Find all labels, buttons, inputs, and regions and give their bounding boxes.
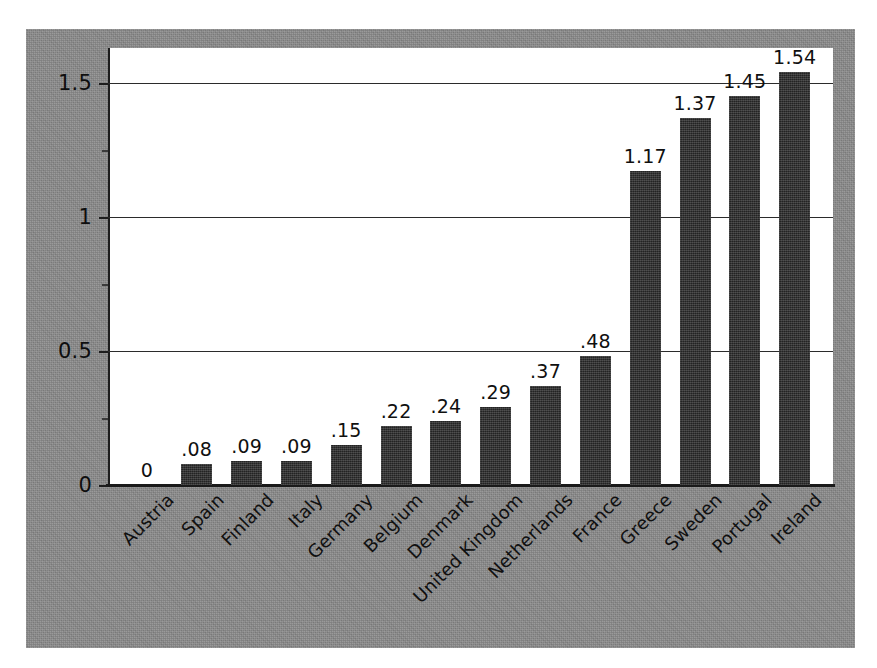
- y-axis-tick-label: 0.5: [26, 339, 92, 363]
- bar: [430, 421, 461, 485]
- x-axis-category-label: Italy: [284, 489, 327, 532]
- bar: [281, 461, 312, 485]
- bar-value-label: .15: [306, 419, 386, 441]
- bar-value-label: .48: [555, 330, 635, 352]
- x-axis-category-label: Austria: [117, 489, 177, 549]
- x-axis-category-labels: AustriaSpainFinlandItalyGermanyBelgiumDe…: [108, 489, 868, 649]
- y-axis-tick-label: 0: [26, 473, 92, 497]
- y-axis-tick: [99, 217, 108, 219]
- bar: [231, 461, 262, 485]
- x-axis-category-label: Finland: [217, 489, 278, 550]
- bar-value-label: .29: [456, 381, 536, 403]
- bar-value-label: .37: [506, 360, 586, 382]
- bar: [680, 118, 711, 485]
- y-axis-tick: [99, 351, 108, 353]
- bar: [480, 407, 511, 485]
- y-axis-tick: [99, 485, 108, 487]
- x-axis-category-label: Ireland: [766, 489, 825, 548]
- y-axis-tick-label: 1.5: [26, 71, 92, 95]
- chart-figure: 00.511.5 0.08.09.09.15.22.24.29.37.481.1…: [0, 0, 877, 668]
- bar: [630, 171, 661, 485]
- bar-value-label: 1.54: [755, 46, 835, 68]
- y-axis-tick: [99, 83, 108, 85]
- bar: [779, 72, 810, 485]
- bar-value-label: 1.45: [705, 70, 785, 92]
- bar: [729, 96, 760, 485]
- y-axis-tick-label: 1: [26, 205, 92, 229]
- bar-value-label: 1.37: [655, 92, 735, 114]
- bar-value-label: 0: [107, 459, 187, 481]
- bar-value-label: 1.17: [605, 145, 685, 167]
